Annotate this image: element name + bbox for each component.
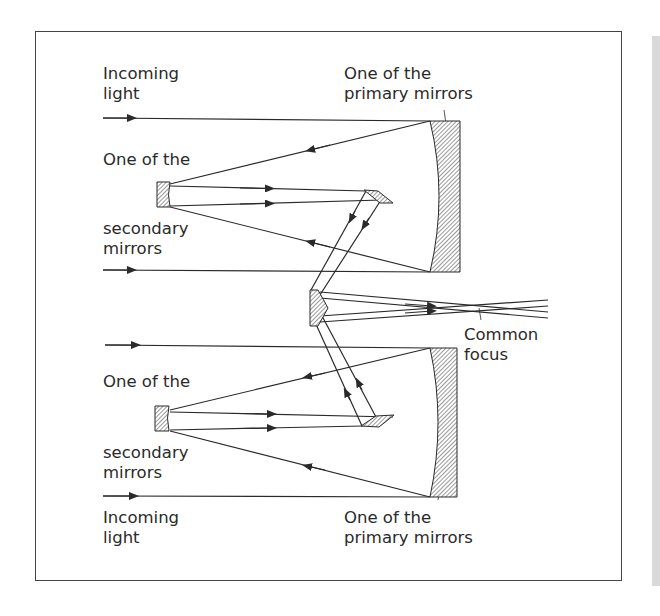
tertiary-mirror-top: [364, 190, 393, 203]
label-line: light: [103, 84, 179, 104]
label-incoming-light-bottom: Incoming light: [103, 508, 179, 548]
secondary-ray-top-1: [170, 186, 366, 191]
label-secondary-top-cont: secondary mirrors: [103, 219, 189, 259]
focus-rays: [320, 292, 548, 322]
secondary-ray-bottom-2: [170, 426, 363, 430]
secondary-mirror-top: [157, 182, 170, 207]
primary-mirror-bottom: [430, 348, 457, 497]
secondary-mirror-bottom: [155, 406, 169, 431]
label-line: Incoming: [103, 508, 179, 528]
label-line: Common: [464, 325, 538, 345]
label-line: secondary: [103, 219, 189, 239]
optical-diagram: [0, 0, 660, 616]
leader-common-focus: [479, 308, 481, 320]
reflected-ray-bottom-upper: [170, 348, 430, 410]
label-line: secondary: [103, 443, 189, 463]
secondary-ray-bottom-1: [170, 412, 393, 417]
label-line: One of the: [103, 150, 190, 170]
label-line: primary mirrors: [344, 528, 473, 548]
incoming-ray-top-1: [103, 118, 430, 121]
label-line: mirrors: [103, 463, 189, 483]
incoming-ray-bottom-2: [103, 496, 430, 497]
label-line: mirrors: [103, 239, 189, 259]
label-line: focus: [464, 345, 538, 365]
label-line: Incoming: [103, 64, 179, 84]
reflected-ray-top-upper: [170, 121, 430, 184]
label-line: One of the: [103, 372, 190, 392]
label-line: One of the: [344, 508, 473, 528]
label-line: primary mirrors: [344, 84, 473, 104]
beam-combiner: [310, 290, 328, 326]
label-secondary-bottom: One of the: [103, 372, 190, 392]
incoming-ray-top-2: [103, 270, 430, 272]
reflected-ray-top-lower: [170, 207, 430, 272]
label-incoming-light-top: Incoming light: [103, 64, 179, 104]
label-line: light: [103, 528, 179, 548]
label-primary-bottom: One of the primary mirrors: [344, 508, 473, 548]
label-common-focus: Common focus: [464, 325, 538, 365]
incoming-ray-bottom-1: [105, 345, 430, 348]
reflected-ray-bottom-lower: [170, 431, 430, 497]
label-line: One of the: [344, 64, 473, 84]
relay-ray-bottom: [315, 316, 376, 426]
label-secondary-bottom-cont: secondary mirrors: [103, 443, 189, 483]
label-secondary-top: One of the: [103, 150, 190, 170]
primary-mirror-top: [430, 121, 460, 272]
secondary-ray-top-2: [170, 200, 382, 206]
label-primary-top: One of the primary mirrors: [344, 64, 473, 104]
